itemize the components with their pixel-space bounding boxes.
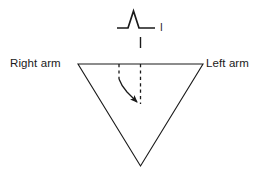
- label-lead-one-top: I: [160, 21, 163, 34]
- label-right-arm: Right arm: [10, 57, 61, 70]
- einthoven-triangle-diagram: [0, 0, 269, 176]
- ecg-qrs-waveform: [117, 11, 155, 28]
- mean-electrical-axis-vector: [119, 79, 137, 102]
- label-left-arm: Left arm: [206, 57, 249, 70]
- figure-root: Right arm Left arm I: [0, 0, 269, 176]
